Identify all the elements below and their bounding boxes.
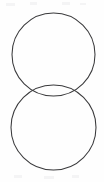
upper-circle <box>12 13 95 96</box>
lower-circle <box>11 85 96 170</box>
diagram-canvas <box>0 0 104 182</box>
two-circles-figure <box>0 0 104 182</box>
